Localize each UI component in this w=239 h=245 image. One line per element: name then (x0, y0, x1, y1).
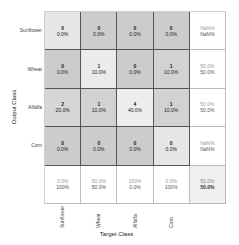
cell-percent: 0.0% (129, 184, 140, 190)
y-tick-label: Sunflower (20, 27, 42, 33)
matrix-cell: 440.0% (117, 89, 153, 127)
cell-percent: 10.0% (92, 69, 106, 75)
cell-percent: 0.0% (57, 31, 68, 37)
cell-percent: 50.0% (200, 107, 214, 113)
cell-percent: 10.0% (92, 107, 106, 113)
cell-percent: 0.0% (165, 31, 176, 37)
y-tick-label: Corn (31, 142, 42, 148)
x-tick-label: Corn (168, 217, 174, 228)
matrix-cell: 00.0% (45, 127, 81, 165)
matrix-cell: 00.0% (117, 127, 153, 165)
cell-percent: 0.0% (129, 69, 140, 75)
cell-percent: 10.0% (164, 107, 178, 113)
overall-accuracy-cell: 50.0%50.0% (190, 166, 226, 204)
row-summary-cell: 50.0%50.0% (190, 50, 226, 88)
cell-percent: NaN% (200, 31, 214, 37)
cell-percent: 50.0% (200, 184, 214, 190)
x-tick-label: Sunflower (59, 206, 65, 228)
y-tick-label: Wheat (28, 66, 42, 72)
matrix-cell: 110.0% (81, 50, 117, 88)
cell-percent: 0.0% (129, 31, 140, 37)
x-axis-title: Target Class (44, 231, 189, 237)
cell-percent: 50.0% (200, 69, 214, 75)
x-tick-label: Wheat (95, 214, 101, 228)
cell-percent: 0.0% (93, 31, 104, 37)
col-summary-cell: 100%0.0% (117, 166, 153, 204)
matrix-cell: 110.0% (154, 50, 190, 88)
cell-percent: 100% (165, 184, 178, 190)
cell-percent: 20.0% (56, 107, 70, 113)
cell-percent: 10.0% (164, 69, 178, 75)
x-tick-label: Alfalfa (132, 214, 138, 228)
row-summary-cell: 50.0%50.0% (190, 89, 226, 127)
matrix-cell: 110.0% (81, 89, 117, 127)
cell-percent: 100% (56, 184, 69, 190)
matrix-cell: 00.0% (45, 50, 81, 88)
cell-percent: 0.0% (93, 146, 104, 152)
matrix-cell: 00.0% (81, 12, 117, 50)
matrix-cell: 00.0% (117, 12, 153, 50)
cell-percent: 40.0% (128, 107, 142, 113)
cell-percent: 0.0% (57, 69, 68, 75)
cell-percent: 0.0% (165, 146, 176, 152)
matrix-cell: 00.0% (117, 50, 153, 88)
cell-percent: 50.0% (92, 184, 106, 190)
col-summary-cell: 50.0%50.0% (81, 166, 117, 204)
row-summary-cell: NaN%NaN% (190, 127, 226, 165)
cell-percent: 0.0% (57, 146, 68, 152)
matrix-cell: 00.0% (81, 127, 117, 165)
cell-percent: NaN% (200, 146, 214, 152)
matrix-cell: 00.0% (154, 12, 190, 50)
matrix-cell: 220.0% (45, 89, 81, 127)
y-tick-label: Alfalfa (28, 104, 42, 110)
matrix-cell: 110.0% (154, 89, 190, 127)
confusion-matrix-grid: 00.0%00.0%00.0%00.0%NaN%NaN%00.0%110.0%0… (44, 11, 226, 204)
col-summary-cell: 0.0%100% (45, 166, 81, 204)
matrix-cell: 00.0% (45, 12, 81, 50)
cell-percent: 0.0% (129, 146, 140, 152)
y-axis-title: Output Class (11, 90, 17, 125)
row-summary-cell: NaN%NaN% (190, 12, 226, 50)
matrix-cell: 00.0% (154, 127, 190, 165)
col-summary-cell: 0.0%100% (154, 166, 190, 204)
